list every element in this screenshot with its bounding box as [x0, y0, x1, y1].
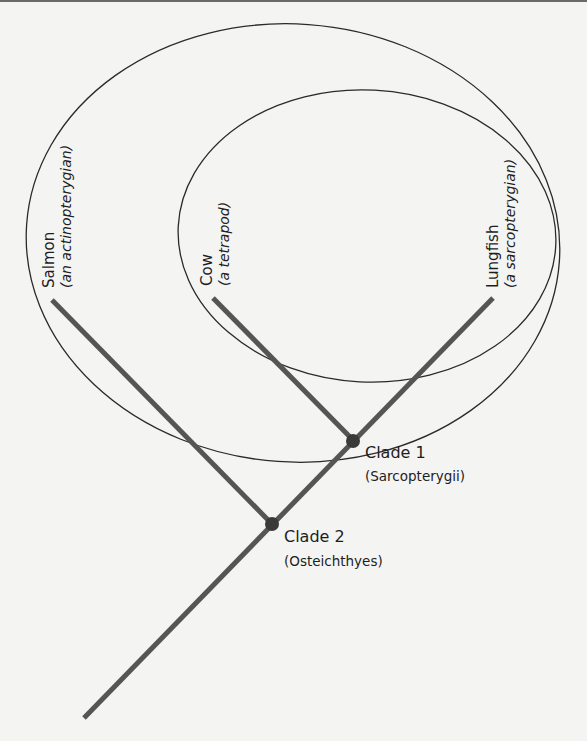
salmon-name: Salmon — [40, 232, 58, 288]
cladogram: Salmon (an actinopterygian) Cow (a tetra… — [0, 0, 587, 741]
clade-2-group: (Osteichthyes) — [284, 553, 383, 569]
cow-label-group: Cow (a tetrapod) — [198, 202, 232, 286]
salmon-label-group: Salmon (an actinopterygian) — [40, 145, 74, 288]
lungfish-description: (a sarcopterygian) — [502, 159, 518, 288]
trunk-branch — [84, 298, 493, 718]
clade-2-label: Clade 2 — [284, 527, 345, 546]
clade-1-group: (Sarcopterygii) — [365, 468, 465, 484]
lungfish-label-group: Lungfish (a sarcopterygian) — [484, 159, 518, 288]
clade-1-label: Clade 1 — [365, 443, 426, 462]
salmon-branch — [52, 300, 272, 524]
lungfish-name: Lungfish — [484, 225, 502, 288]
cow-branch — [213, 298, 353, 440]
cow-name: Cow — [198, 254, 216, 286]
salmon-description: (an actinopterygian) — [58, 145, 74, 288]
cow-description: (a tetrapod) — [216, 202, 232, 286]
clade-2-node — [265, 517, 279, 531]
clade-1-node — [346, 434, 360, 448]
